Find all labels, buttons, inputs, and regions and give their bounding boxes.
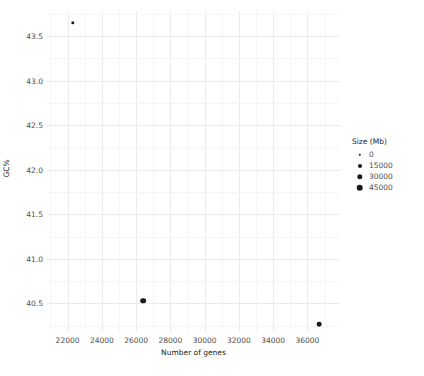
x-axis-tick-label: 30000 — [193, 336, 217, 345]
gridline-minor-horizontal — [47, 103, 340, 104]
gridline-minor-horizontal — [47, 192, 340, 193]
y-axis-tick-label: 41.0 — [26, 254, 43, 263]
legend-item: 0 — [352, 149, 418, 160]
y-axis-tick-label: 40.5 — [26, 299, 43, 308]
y-axis-title: GC% — [2, 149, 11, 189]
x-axis-tick-label: 22000 — [56, 336, 80, 345]
gridline-minor-horizontal — [47, 326, 340, 327]
legend-item: 30000 — [352, 171, 418, 182]
gridline-major-horizontal — [47, 303, 340, 304]
x-axis-title: Number of genes — [47, 348, 340, 357]
x-axis-tick-label: 28000 — [158, 336, 182, 345]
legend-item: 45000 — [352, 182, 418, 193]
gridline-minor-horizontal — [47, 58, 340, 59]
legend-key-dot — [352, 182, 367, 193]
x-axis-tick-label: 26000 — [124, 336, 148, 345]
x-axis-tick-labels: 2200024000260002800030000320003400036000 — [47, 336, 340, 348]
legend-item-label: 45000 — [367, 183, 393, 192]
gridline-major-horizontal — [47, 36, 340, 37]
data-point — [317, 322, 322, 327]
gridline-major-horizontal — [47, 125, 340, 126]
legend-item: 15000 — [352, 160, 418, 171]
gridline-minor-horizontal — [47, 237, 340, 238]
data-point — [140, 298, 146, 304]
gridline-major-horizontal — [47, 170, 340, 171]
x-axis-tick-label: 34000 — [261, 336, 285, 345]
y-axis-tick-label: 42.5 — [26, 121, 43, 130]
gridline-minor-horizontal — [47, 147, 340, 148]
legend-item-label: 0 — [367, 150, 374, 159]
legend-key-dot — [352, 171, 367, 182]
x-axis-tick-label: 36000 — [296, 336, 320, 345]
x-axis-tick-label: 24000 — [90, 336, 114, 345]
x-axis-tick-label: 32000 — [227, 336, 251, 345]
gridline-major-horizontal — [47, 259, 340, 260]
scatter-plot-figure: 40.541.041.542.042.543.043.5 22000240002… — [0, 0, 424, 376]
plot-panel — [47, 11, 340, 332]
gridline-minor-horizontal — [47, 14, 340, 15]
y-axis-tick-label: 43.5 — [26, 31, 43, 40]
legend-item-label: 15000 — [367, 161, 393, 170]
y-axis-tick-label: 41.5 — [26, 210, 43, 219]
gridline-major-horizontal — [47, 214, 340, 215]
y-axis-tick-label: 42.0 — [26, 165, 43, 174]
legend-item-label: 30000 — [367, 172, 393, 181]
data-point — [71, 21, 74, 24]
gridline-major-horizontal — [47, 81, 340, 82]
legend-key-dot — [352, 149, 367, 160]
y-axis-tick-label: 43.0 — [26, 76, 43, 85]
legend: Size (Mb) 0150003000045000 — [352, 137, 418, 193]
legend-key-dot — [352, 160, 367, 171]
legend-title: Size (Mb) — [352, 137, 418, 146]
gridline-minor-horizontal — [47, 281, 340, 282]
legend-items: 0150003000045000 — [352, 149, 418, 193]
